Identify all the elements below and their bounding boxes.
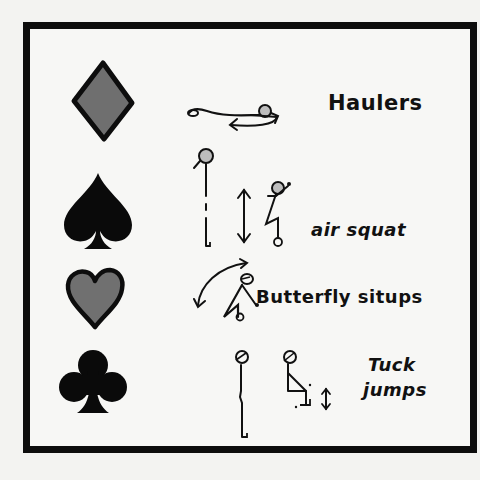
- spade-icon: [60, 171, 134, 253]
- workout-card-image: Haulers: [0, 0, 480, 480]
- exercise-label-air-squat: air squat: [311, 219, 406, 240]
- tuck-jumps-figure: [230, 347, 350, 447]
- workout-card: Haulers: [23, 22, 477, 453]
- haulers-figure: [185, 99, 285, 135]
- exercise-label-jumps: jumps: [363, 379, 427, 400]
- club-icon: [57, 347, 129, 419]
- exercise-label-haulers: Haulers: [328, 91, 423, 115]
- exercise-label-tuck: Tuck: [368, 354, 415, 375]
- diamond-icon: [70, 59, 136, 143]
- heart-icon: [64, 267, 126, 331]
- exercise-label-butterfly-situps: Butterfly situps: [256, 286, 423, 307]
- air-squat-figure: [192, 146, 302, 256]
